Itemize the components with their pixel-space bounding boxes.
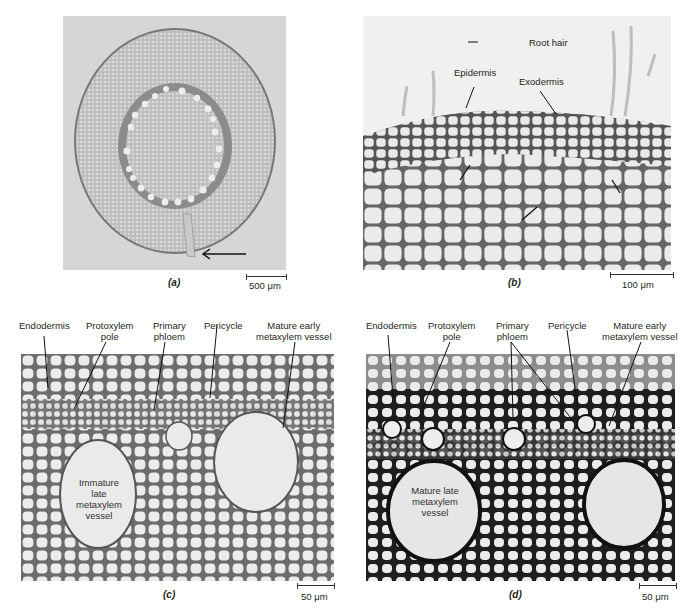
panel-d-scale-label: 50 μm: [642, 591, 669, 602]
label-epidermis: Epidermis: [454, 67, 496, 78]
panel-d-scale-bar: [639, 583, 677, 589]
root-cross-section-image: [63, 16, 286, 270]
epidermis-cells-image: [363, 16, 671, 270]
panel-d-micrograph: [366, 354, 675, 581]
label-protoxylem-pole-d: Protoxylem pole: [428, 320, 476, 342]
panel-c-micrograph: [21, 354, 334, 581]
inner-label-line: vessel: [405, 507, 465, 518]
label-pericycle-d: Pericycle: [548, 320, 587, 331]
panel-b-micrograph: [363, 16, 671, 270]
label-primary-phloem-d: Primary phloem: [496, 320, 529, 342]
label-protoxylem-pole-c: Protoxylem pole: [86, 320, 134, 342]
panel-b-letter: (b): [508, 277, 521, 288]
panel-c-scale-bar: [297, 583, 335, 589]
inner-label-line: late: [74, 488, 124, 499]
label-line: Mature early: [602, 320, 678, 331]
label-line: Protoxylem: [428, 320, 476, 331]
label-line: Mature early: [256, 320, 332, 331]
label-line: metaxylem vessel: [602, 331, 678, 342]
panel-d-letter: (d): [509, 589, 522, 600]
panel-a-micrograph: [63, 16, 286, 270]
panel-c-letter: (c): [163, 589, 175, 600]
panel-b-scale-label: 100 μm: [622, 279, 654, 290]
label-pericycle-c: Pericycle: [204, 320, 243, 331]
label-endodermis-c: Endodermis: [19, 320, 70, 331]
stele-immature-image: [21, 354, 334, 581]
inner-label-line: vessel: [74, 510, 124, 521]
panel-b-scale-bar: [610, 272, 674, 278]
label-exodermis: Exodermis: [519, 76, 564, 87]
label-line: pole: [86, 331, 134, 342]
panel-c-inner-label: Immature late metaxylem vessel: [74, 477, 124, 521]
panel-a-scale-label: 500 μm: [249, 280, 281, 291]
inner-label-line: metaxylem: [405, 496, 465, 507]
label-endodermis-d: Endodermis: [366, 320, 417, 331]
label-line: pole: [428, 331, 476, 342]
label-line: Protoxylem: [86, 320, 134, 331]
label-line: phloem: [496, 331, 529, 342]
label-line: metaxylem vessel: [256, 331, 332, 342]
inner-label-line: Immature: [74, 477, 124, 488]
label-line: Primary: [153, 320, 186, 331]
label-root-hair: Root hair: [529, 37, 568, 48]
inner-label-line: metaxylem: [74, 499, 124, 510]
panel-d-inner-label: Mature late metaxylem vessel: [405, 485, 465, 518]
label-line: phloem: [153, 331, 186, 342]
label-primary-phloem-c: Primary phloem: [153, 320, 186, 342]
label-mature-early-metaxylem-c: Mature early metaxylem vessel: [256, 320, 332, 342]
inner-label-line: Mature late: [405, 485, 465, 496]
label-mature-early-metaxylem-d: Mature early metaxylem vessel: [602, 320, 678, 342]
panel-c-scale-label: 50 μm: [301, 591, 328, 602]
label-line: Primary: [496, 320, 529, 331]
panel-a-letter: (a): [168, 277, 180, 288]
stele-mature-image: [366, 354, 675, 581]
